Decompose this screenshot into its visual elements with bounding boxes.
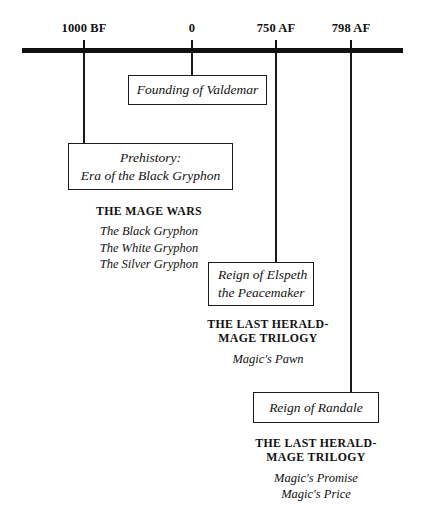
booklist-the-mage-wars: THE MAGE WARS The Black Gryphon The Whit…	[88, 204, 210, 272]
axis-label-0: 0	[189, 21, 195, 36]
callout-reign-of-randale: Reign of Randale	[253, 392, 379, 423]
callout-line: Reign of Elspeth	[218, 266, 307, 284]
booklist-herald-mage-trilogy-pawn: THE LAST HERALD- MAGE TRILOGY Magic's Pa…	[196, 317, 340, 367]
series-titles: The Black Gryphon The White Gryphon The …	[88, 223, 210, 272]
book-title: The Black Gryphon	[88, 223, 210, 239]
connector-750af-to-elspeth	[275, 53, 277, 263]
axis-label-750-af: 750 AF	[257, 21, 295, 36]
callout-founding-of-valdemar: Founding of Valdemar	[128, 75, 267, 105]
callout-line: Era of the Black Gryphon	[81, 167, 220, 185]
book-title: Magic's Pawn	[196, 351, 340, 367]
callout-line: Founding of Valdemar	[137, 81, 259, 99]
book-title: Magic's Promise	[244, 470, 388, 486]
book-title: The White Gryphon	[88, 240, 210, 256]
axis-label-1000-bf: 1000 BF	[62, 21, 107, 36]
series-heading: THE LAST HERALD-	[196, 317, 340, 331]
book-title: The Silver Gryphon	[88, 256, 210, 272]
series-heading: MAGE TRILOGY	[196, 331, 340, 345]
series-titles: Magic's Promise Magic's Price	[244, 470, 388, 503]
callout-line: the Peacemaker	[218, 284, 305, 302]
connector-798af-to-randale	[350, 53, 352, 393]
timeline-figure: 1000 BF 0 750 AF 798 AF Founding of Vald…	[0, 0, 424, 514]
callout-reign-of-elspeth: Reign of Elspeth the Peacemaker	[208, 262, 314, 306]
book-title: Magic's Price	[244, 486, 388, 502]
callout-line: Reign of Randale	[269, 399, 363, 417]
series-heading: MAGE TRILOGY	[244, 450, 388, 464]
series-heading: THE MAGE WARS	[88, 204, 210, 218]
timeline-axis-bar	[22, 48, 403, 53]
booklist-herald-mage-trilogy-promise-price: THE LAST HERALD- MAGE TRILOGY Magic's Pr…	[244, 436, 388, 502]
callout-line: Prehistory:	[120, 149, 181, 167]
axis-label-798-af: 798 AF	[332, 21, 370, 36]
connector-1000bf-to-prehistory	[83, 53, 85, 144]
callout-prehistory: Prehistory: Era of the Black Gryphon	[68, 143, 233, 190]
series-heading: THE LAST HERALD-	[244, 436, 388, 450]
connector-0-to-founding	[191, 53, 193, 76]
series-titles: Magic's Pawn	[196, 351, 340, 367]
